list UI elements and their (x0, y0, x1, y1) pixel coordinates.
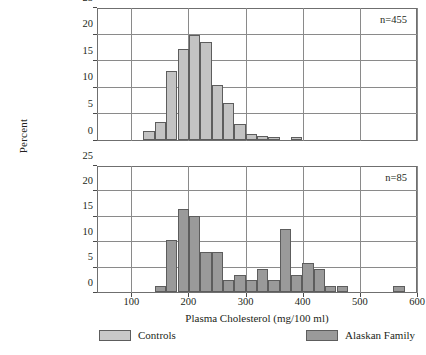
legend-swatch-alaskan-family (306, 330, 338, 341)
sample-size-annotation-controls: n=455 (380, 14, 407, 25)
histogram-bar (291, 137, 302, 140)
y-tick-label: 5 (59, 252, 93, 263)
legend-label-alaskan-family: Alaskan Family (345, 329, 415, 341)
y-tick-mark (93, 87, 97, 88)
y-tick-label: 25 (59, 0, 93, 3)
y-tick-label: 15 (59, 201, 93, 212)
histogram-bar (337, 286, 348, 292)
y-tick-label: 20 (59, 176, 93, 187)
y-axis-title: Percent (17, 91, 29, 181)
histogram-bar (223, 280, 234, 292)
histogram-bar (291, 275, 302, 293)
x-tick-mark (131, 293, 132, 297)
histogram-bar (246, 134, 257, 140)
y-tick-mark (93, 34, 97, 35)
legend-item-controls: Controls (99, 329, 176, 341)
legend-item-alaskan-family: Alaskan Family (306, 329, 415, 341)
y-tick-label: 0 (59, 125, 93, 136)
panel-controls: 0510152025 n=455 (97, 8, 417, 141)
histogram-bar (234, 275, 245, 293)
cholesterol-histogram-figure: Percent 0510152025 n=455 0510152025 1002… (0, 0, 426, 355)
x-tick-label: 100 (123, 297, 139, 308)
histogram-bar (166, 71, 177, 140)
y-tick-label: 0 (59, 277, 93, 288)
x-tick-mark (246, 293, 247, 297)
x-tick-label: 400 (295, 297, 311, 308)
y-tick-mark (93, 241, 97, 242)
x-axis-title: Plasma Cholesterol (mg/100 ml) (97, 312, 417, 324)
histogram-bar (189, 216, 200, 293)
y-tick-label: 25 (59, 150, 93, 161)
y-tick-mark (93, 140, 97, 141)
histogram-bar (189, 35, 200, 140)
x-tick-label: 300 (238, 297, 254, 308)
y-tick-mark (93, 292, 97, 293)
histogram-bar (155, 122, 166, 140)
histogram-bar (246, 280, 257, 292)
histogram-bar (325, 286, 336, 292)
legend-swatch-controls (99, 330, 131, 341)
x-tick-label: 600 (409, 297, 425, 308)
histogram-bar (314, 269, 325, 293)
histogram-bar (178, 49, 189, 140)
histogram-bar (280, 229, 291, 292)
y-tick-label: 15 (59, 45, 93, 56)
histogram-bar (212, 85, 223, 140)
histogram-bar (268, 137, 279, 140)
histogram-bar (223, 103, 234, 140)
histogram-bar (155, 286, 166, 292)
y-tick-mark (93, 60, 97, 61)
y-tick-mark (93, 7, 97, 8)
chart-legend: Controls Alaskan Family (97, 329, 417, 341)
y-tick-mark (93, 190, 97, 191)
y-tick-mark (93, 113, 97, 114)
histogram-bar (302, 263, 313, 293)
histogram-bar (166, 240, 177, 292)
x-tick-mark (303, 293, 304, 297)
histogram-bar (200, 42, 211, 140)
y-tick-label: 10 (59, 72, 93, 83)
histogram-bar (178, 209, 189, 293)
histogram-bar (257, 269, 268, 293)
histogram-bar (234, 124, 245, 140)
x-tick-label: 500 (352, 297, 368, 308)
histogram-bar (200, 252, 211, 293)
sample-size-annotation-alaskan-family: n=85 (385, 172, 407, 183)
x-tick-mark (360, 293, 361, 297)
histogram-bar (393, 286, 404, 292)
gridline-vertical (417, 8, 418, 141)
legend-label-controls: Controls (138, 329, 176, 341)
histogram-bar (212, 252, 223, 293)
y-tick-mark (93, 165, 97, 166)
panel-alaskan-family: 0510152025 100200300400500600 n=85 (97, 166, 417, 293)
bar-group-controls (98, 9, 416, 140)
gridline-vertical (417, 166, 418, 293)
histogram-bar (268, 280, 279, 292)
y-tick-label: 10 (59, 226, 93, 237)
bar-group-alaskan-family (98, 167, 416, 292)
histogram-bar (143, 131, 154, 140)
y-tick-mark (93, 267, 97, 268)
y-tick-label: 5 (59, 99, 93, 110)
x-tick-mark (188, 293, 189, 297)
y-tick-mark (93, 216, 97, 217)
x-tick-mark (417, 293, 418, 297)
x-tick-label: 200 (181, 297, 197, 308)
y-tick-label: 20 (59, 19, 93, 30)
histogram-bar (257, 136, 268, 140)
